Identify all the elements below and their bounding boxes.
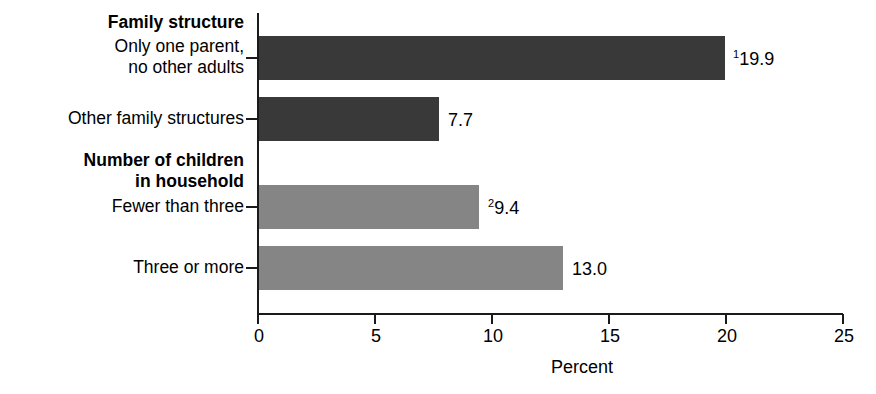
plot-area: Family structure Only one parent,no othe… [0, 0, 876, 394]
x-tick-10 [491, 314, 493, 324]
bar-fewer-than-three [259, 185, 479, 229]
x-tick-label-25: 25 [834, 327, 854, 345]
category-label-only-one-parent-line2: no other adults [128, 57, 244, 77]
bar-value-only-one-parent-text: 19.9 [739, 49, 774, 69]
category-label-only-one-parent: Only one parent,no other adults [115, 36, 244, 78]
x-axis-title: Percent [551, 358, 613, 376]
bar-value-only-one-parent: 119.9 [733, 50, 774, 68]
group-label-number-of-children: Number of childrenin household [84, 150, 244, 192]
x-axis-line [257, 313, 843, 315]
bar-value-fewer-than-three: 29.4 [488, 199, 519, 217]
x-tick-25 [842, 314, 844, 324]
x-axis-title-wrapper: Percent [0, 358, 876, 376]
x-tick-0 [257, 314, 259, 324]
bar-value-three-or-more: 13.0 [572, 260, 607, 278]
group-label-number-of-children-line1: Number of children [84, 150, 244, 170]
y-tick-fewer-than-three [246, 206, 257, 208]
group-label-family-structure: Family structure [108, 12, 244, 33]
x-tick-15 [608, 314, 610, 324]
category-label-other-family-structures: Other family structures [68, 108, 244, 129]
x-tick-label-20: 20 [717, 327, 737, 345]
x-tick-label-15: 15 [600, 327, 620, 345]
y-tick-other-family-structures [246, 118, 257, 120]
bar-other-family-structures [259, 97, 439, 141]
bar-chart: Family structure Only one parent,no othe… [0, 0, 876, 394]
bar-value-fewer-than-three-text: 9.4 [494, 198, 519, 218]
bar-three-or-more [259, 246, 563, 290]
bar-value-other-family-structures: 7.7 [448, 111, 473, 129]
y-tick-three-or-more [246, 267, 257, 269]
bar-only-one-parent [259, 36, 725, 80]
x-tick-label-0: 0 [254, 327, 264, 345]
x-tick-label-5: 5 [371, 327, 381, 345]
x-tick-20 [725, 314, 727, 324]
category-label-three-or-more: Three or more [133, 257, 244, 278]
group-label-number-of-children-line2: in household [135, 171, 244, 191]
x-tick-label-10: 10 [483, 327, 503, 345]
y-tick-only-one-parent [246, 57, 257, 59]
category-label-fewer-than-three: Fewer than three [112, 196, 244, 217]
category-label-only-one-parent-line1: Only one parent, [115, 36, 244, 56]
x-tick-5 [374, 314, 376, 324]
